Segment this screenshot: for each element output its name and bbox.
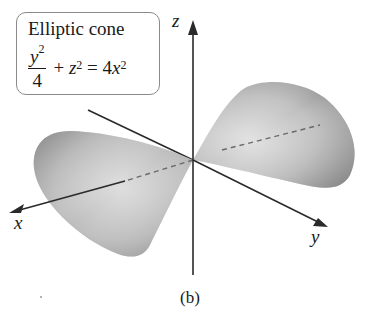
left-nappe xyxy=(34,131,193,257)
eq-rhs-x: x xyxy=(112,57,120,79)
z-axis-arrowhead xyxy=(188,20,198,35)
figure-caption: (b) xyxy=(180,288,200,308)
eq-z-exp: 2 xyxy=(76,58,82,73)
eq-z: z xyxy=(69,57,76,79)
equation: y2 4 + z2 = 4x2 xyxy=(28,45,126,91)
equation-label-box: Elliptic cone y2 4 + z2 = 4x2 xyxy=(16,12,160,95)
eq-equals: = xyxy=(87,57,98,79)
eq-plus: + xyxy=(53,57,64,79)
eq-denominator: 4 xyxy=(32,69,42,90)
fraction-y2-over-4: y2 4 xyxy=(28,46,46,90)
surface-name: Elliptic cone xyxy=(28,18,125,40)
eq-rhs-exp: 2 xyxy=(120,58,126,73)
y-axis-label: y xyxy=(311,226,319,248)
eq-rhs-coef: 4 xyxy=(103,57,113,79)
eq-y-exp: 2 xyxy=(38,42,44,56)
speck xyxy=(40,296,42,298)
elliptic-cone-figure: Elliptic cone y2 4 + z2 = 4x2 z x y (b) xyxy=(0,0,367,319)
z-axis-label: z xyxy=(172,10,179,32)
x-axis-label: x xyxy=(14,212,22,234)
